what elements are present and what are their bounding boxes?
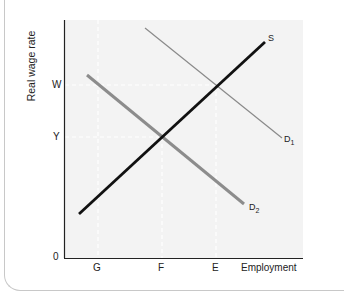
d2-label: D2 [249, 202, 259, 214]
x-tick-g: G [93, 262, 101, 273]
x-axis-label: Employment [241, 262, 297, 273]
plot-area [65, 20, 303, 258]
x-tick-e: E [212, 262, 219, 273]
y-axis-label: Real wage rate [25, 21, 37, 111]
d2-subscript: 2 [256, 207, 260, 214]
d1-label: D1 [284, 134, 294, 146]
y-tick-y: Y [53, 131, 60, 142]
x-tick-f: F [158, 262, 164, 273]
origin-label: 0 [53, 251, 59, 262]
y-tick-w: W [52, 79, 61, 90]
d1-subscript: 1 [291, 139, 295, 146]
supply-label: S [268, 33, 274, 43]
